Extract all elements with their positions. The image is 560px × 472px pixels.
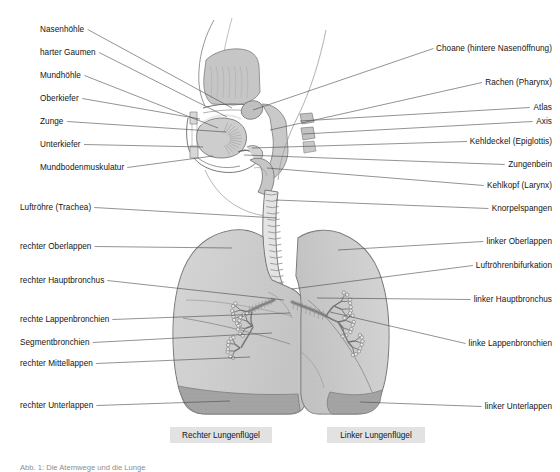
caption-rechter-lungenfluegel: Rechter Lungenflügel xyxy=(170,427,272,443)
label-linker-oberlappen: linker Oberlappen xyxy=(0,237,552,246)
label-rechte-lappenbronchien: rechte Lappenbronchien xyxy=(20,315,109,324)
label-nasenhoehle: Nasenhöhle xyxy=(40,25,84,34)
label-linker-hauptbronchus: linker Hauptbronchus xyxy=(0,295,552,304)
label-linker-unterlappen: linker Unterlappen xyxy=(0,402,552,411)
label-rachen: Rachen (Pharynx) xyxy=(0,78,552,87)
label-linke-lappenbronchien: linke Lappenbronchien xyxy=(0,339,552,348)
label-zungenbein: Zungenbein xyxy=(0,160,552,169)
label-kehlkopf: Kehlkopf (Larynx) xyxy=(0,181,552,190)
label-luftroehrenbifurkation: Luftröhrenbifurkation xyxy=(0,261,552,270)
label-axis: Axis xyxy=(0,117,552,126)
figure-caption: Abb. 1: Die Atemwege und die Lunge xyxy=(20,463,145,472)
label-oberkiefer: Oberkiefer xyxy=(40,94,79,103)
caption-linker-lungenfluegel: Linker Lungenflügel xyxy=(327,427,425,443)
label-choane: Choane (hintere Nasenöffnung) xyxy=(0,44,552,53)
label-kehldeckel: Kehldeckel (Epiglottis) xyxy=(0,137,552,146)
label-knorpelspangen: Knorpelspangen xyxy=(0,204,552,213)
label-rechter-hauptbronchus: rechter Hauptbronchus xyxy=(20,276,104,285)
label-atlas: Atlas xyxy=(0,103,552,112)
label-rechter-mittellappen: rechter Mittellappen xyxy=(20,359,93,368)
